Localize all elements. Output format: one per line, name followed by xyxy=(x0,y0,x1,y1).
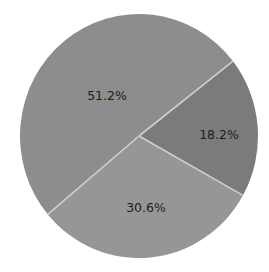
slice-label-1: 30.6% xyxy=(126,200,166,215)
slice-label-2: 18.2% xyxy=(199,127,239,142)
slice-label-0: 51.2% xyxy=(87,88,127,103)
pie-chart: 51.2% 30.6% 18.2% xyxy=(0,0,269,272)
pie-chart-canvas: 51.2% 30.6% 18.2% xyxy=(0,0,269,272)
